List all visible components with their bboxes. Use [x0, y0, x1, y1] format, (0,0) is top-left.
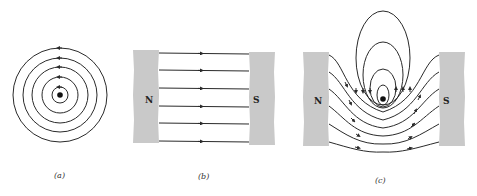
- panel-b: N S (b): [133, 50, 275, 181]
- wire-dot-icon: [57, 92, 63, 98]
- north-label: N: [314, 96, 322, 106]
- south-label: S: [253, 95, 260, 105]
- panel-a: (a): [13, 48, 107, 180]
- north-label: N: [145, 95, 153, 105]
- caption-a: (a): [54, 171, 65, 180]
- south-label: S: [443, 96, 450, 106]
- magnetic-field-figure: (a) N S (b) N S: [0, 0, 477, 196]
- panel-c: N S: [303, 11, 465, 185]
- wire-dot-icon: [380, 96, 386, 102]
- caption-c: (c): [375, 176, 386, 185]
- bent-field-lines: [329, 55, 439, 152]
- uniform-field-lines: [159, 53, 249, 142]
- closed-loops-around-wire: [356, 11, 410, 108]
- caption-b: (b): [198, 172, 209, 181]
